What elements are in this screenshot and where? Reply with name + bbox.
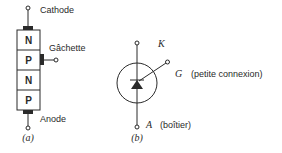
gate-terminal-icon [54, 58, 58, 62]
figure-b-symbol: K G (petite connexion) A (boîtier) (b) [117, 38, 263, 144]
thyristor-triangle-icon [131, 80, 143, 89]
g-terminal-icon [166, 60, 170, 64]
caption-b: (b) [131, 132, 143, 144]
k-terminal-icon [135, 41, 139, 45]
layer-3-label: N [25, 75, 32, 86]
cathode-contact [23, 26, 33, 30]
caption-a: (a) [22, 132, 34, 144]
a-label: A [145, 119, 153, 130]
layer-2-label: P [25, 55, 32, 66]
a-terminal-icon [135, 125, 139, 129]
layer-1-label: N [25, 35, 32, 46]
cathode-label: Cathode [40, 5, 74, 15]
layer-4-label: P [25, 95, 32, 106]
thyristor-diagram: Cathode N P N P Gâchette Anode (a) K [0, 0, 282, 153]
g-note: (petite connexion) [191, 69, 263, 79]
gate-contact [40, 54, 44, 65]
cathode-terminal-icon [26, 6, 30, 10]
k-label: K [157, 38, 166, 49]
gate-label: Gâchette [49, 43, 86, 53]
figure-a-layer-structure: Cathode N P N P Gâchette Anode (a) [17, 5, 86, 144]
g-label: G [175, 68, 182, 79]
anode-terminal-icon [26, 126, 30, 130]
a-note: (boîtier) [160, 120, 191, 130]
anode-label: Anode [40, 114, 66, 124]
anode-contact [23, 110, 33, 114]
